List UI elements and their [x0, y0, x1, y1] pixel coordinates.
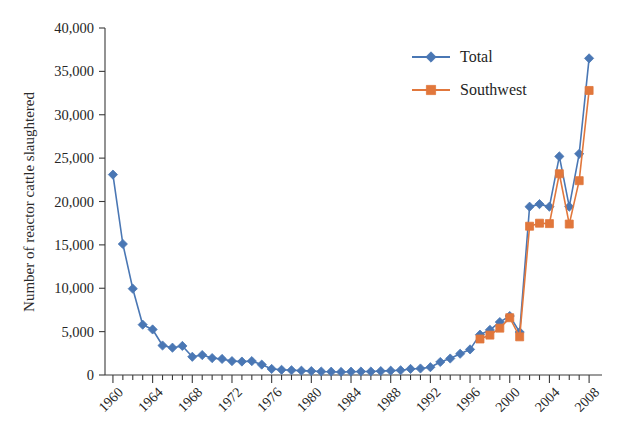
- x-tick-label: 1984: [334, 385, 364, 415]
- y-tick-label: 40,000: [54, 20, 94, 36]
- data-point-marker: [118, 239, 127, 248]
- data-series-group: [108, 54, 593, 377]
- x-tick-label: 1960: [96, 385, 126, 415]
- y-tick-label: 10,000: [54, 280, 94, 296]
- series-line: [480, 90, 589, 339]
- data-point-marker: [486, 331, 494, 339]
- data-point-marker: [506, 314, 514, 322]
- axis-lines: [105, 28, 602, 375]
- line-chart: Number of reactor cattle slaughtered 05,…: [0, 0, 636, 445]
- data-point-marker: [198, 350, 207, 359]
- data-point-marker: [396, 366, 405, 375]
- data-point-marker: [376, 366, 385, 375]
- data-point-marker: [536, 219, 544, 227]
- x-tick-label: 1972: [215, 385, 245, 415]
- y-tick-label: 0: [87, 367, 94, 383]
- data-point-marker: [247, 357, 256, 366]
- y-tick-label: 30,000: [54, 107, 94, 123]
- y-tick-label: 5,000: [61, 324, 94, 340]
- x-tick-label: 1964: [135, 385, 165, 415]
- data-point-marker: [436, 357, 445, 366]
- data-point-marker: [545, 220, 553, 228]
- data-point-marker: [227, 357, 236, 366]
- data-point-marker: [287, 366, 296, 375]
- data-point-marker: [108, 170, 117, 179]
- x-tick-label: 1988: [373, 385, 403, 415]
- data-point-marker: [565, 220, 573, 228]
- x-tick-label: 2004: [532, 385, 562, 415]
- y-axis-ticks: 05,00010,00015,00020,00025,00030,00035,0…: [54, 20, 105, 383]
- data-point-marker: [465, 345, 474, 354]
- data-point-marker: [525, 202, 534, 211]
- legend-label: Southwest: [460, 81, 527, 98]
- data-point-marker: [138, 320, 147, 329]
- data-point-marker: [297, 366, 306, 375]
- data-point-marker: [426, 363, 435, 372]
- data-point-marker: [555, 152, 564, 161]
- data-point-marker: [148, 325, 157, 334]
- data-point-marker: [516, 333, 524, 341]
- data-point-marker: [585, 86, 593, 94]
- y-axis-title: Number of reactor cattle slaughtered: [21, 92, 37, 312]
- data-point-marker: [535, 200, 544, 209]
- y-tick-label: 20,000: [54, 194, 94, 210]
- x-tick-label: 1992: [413, 385, 443, 415]
- data-point-marker: [217, 354, 226, 363]
- data-point-marker: [446, 354, 455, 363]
- x-axis-ticks: 1960196419681972197619801984198819921996…: [96, 375, 603, 415]
- data-point-marker: [267, 364, 276, 373]
- x-tick-label: 1976: [254, 385, 284, 415]
- legend-marker-square: [426, 85, 435, 94]
- data-point-marker: [416, 364, 425, 373]
- data-point-marker: [406, 364, 415, 373]
- x-tick-label: 1980: [294, 385, 324, 415]
- y-tick-label: 25,000: [54, 150, 94, 166]
- chart-container: Number of reactor cattle slaughtered 05,…: [0, 0, 636, 445]
- x-tick-label: 2008: [572, 385, 602, 415]
- data-point-marker: [526, 222, 534, 230]
- data-point-marker: [496, 324, 504, 332]
- data-point-marker: [257, 360, 266, 369]
- series-line: [113, 58, 589, 372]
- data-point-marker: [386, 366, 395, 375]
- y-tick-label: 35,000: [54, 63, 94, 79]
- data-point-marker: [158, 341, 167, 350]
- data-point-marker: [168, 343, 177, 352]
- data-point-marker: [277, 365, 286, 374]
- data-point-marker: [476, 335, 484, 343]
- data-point-marker: [237, 357, 246, 366]
- legend-marker-diamond: [426, 52, 436, 62]
- data-point-marker: [555, 170, 563, 178]
- data-point-marker: [208, 353, 217, 362]
- data-point-marker: [456, 349, 465, 358]
- x-tick-label: 2000: [492, 385, 522, 415]
- x-tick-label: 1968: [175, 385, 205, 415]
- y-axis-title-text: Number of reactor cattle slaughtered: [21, 92, 37, 312]
- legend-label: Total: [460, 48, 493, 65]
- x-tick-label: 1996: [453, 385, 483, 415]
- data-point-marker: [575, 177, 583, 185]
- chart-legend: TotalSouthwest: [412, 48, 527, 98]
- data-point-marker: [307, 366, 316, 375]
- series-southwest: [476, 86, 593, 343]
- data-point-marker: [128, 284, 137, 293]
- data-point-marker: [585, 54, 594, 63]
- y-tick-label: 15,000: [54, 237, 94, 253]
